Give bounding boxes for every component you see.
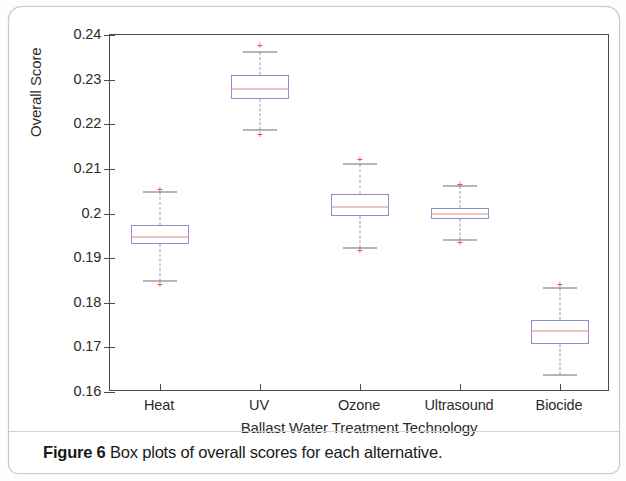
x-tick-label-ultrasound: Ultrasound [424, 397, 493, 413]
outlier-marker [557, 280, 564, 287]
figure-caption: Figure 6 Box plots of overall scores for… [43, 443, 603, 462]
plot-frame [109, 34, 609, 391]
median-line [531, 330, 589, 331]
caption-divider [9, 431, 619, 432]
x-tick-label-heat: Heat [144, 397, 174, 413]
x-tick-label-ozone: Ozone [338, 397, 380, 413]
y-tick-label: 0.2 [31, 205, 101, 221]
whisker-upper [560, 288, 561, 320]
y-tick-inner [110, 392, 115, 393]
y-tick-label: 0.17 [31, 338, 101, 354]
x-tick-label-uv: UV [249, 397, 269, 413]
boxplot-biocide [110, 35, 608, 390]
page-root: Overall Score 0.160.170.180.190.20.210.2… [0, 0, 626, 481]
box-iqr [531, 320, 589, 345]
y-tick-label: 0.18 [31, 294, 101, 310]
y-tick-label: 0.21 [31, 160, 101, 176]
y-tick-label: 0.23 [31, 71, 101, 87]
figure-caption-text: Box plots of overall scores for each alt… [110, 443, 442, 461]
boxplot-series [110, 35, 608, 390]
cap-lower [543, 375, 577, 376]
y-tick-label: 0.22 [31, 115, 101, 131]
scanned-figure-card: Overall Score 0.160.170.180.190.20.210.2… [8, 6, 620, 474]
x-tick-label-biocide: Biocide [536, 397, 583, 413]
y-tick-label: 0.19 [31, 249, 101, 265]
x-axis-title: Ballast Water Treatment Technology [109, 419, 609, 436]
y-tick-label: 0.24 [31, 26, 101, 42]
whisker-lower [560, 344, 561, 375]
y-tick-label: 0.16 [31, 383, 101, 399]
figure-plot-area: Overall Score 0.160.170.180.190.20.210.2… [9, 7, 619, 427]
figure-caption-label: Figure 6 [43, 443, 106, 461]
